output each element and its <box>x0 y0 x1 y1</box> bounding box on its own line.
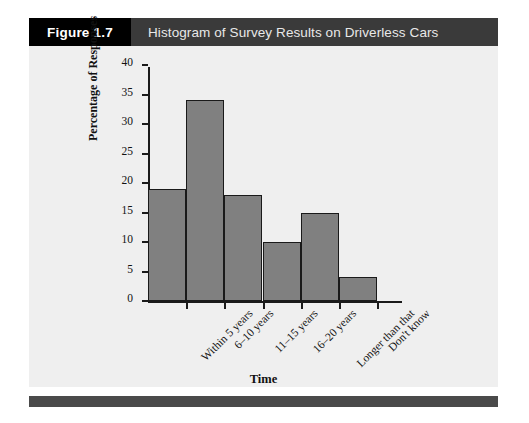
y-axis-tick: 30 <box>142 123 148 125</box>
bar <box>301 213 339 302</box>
bar <box>263 242 301 301</box>
y-axis-tick-label: 5 <box>127 263 133 275</box>
bar <box>148 189 186 301</box>
plot-area: 0510152025303540 <box>148 67 377 303</box>
figure-title: Histogram of Survey Results on Driverles… <box>131 18 498 46</box>
y-axis-tick-label: 20 <box>122 174 134 186</box>
figure-footer-bar <box>29 396 498 407</box>
bar <box>339 277 377 301</box>
y-axis-tick-label: 10 <box>122 233 134 245</box>
x-axis-title: Time <box>29 372 498 387</box>
figure-number-label: Figure 1.7 <box>29 18 131 46</box>
y-axis-tick: 25 <box>142 153 148 155</box>
y-axis-tick: 35 <box>142 94 148 96</box>
y-axis-title: Percentage of Responses <box>86 16 101 141</box>
y-axis-tick-label: 25 <box>122 145 134 157</box>
x-axis-tick-labels: Within 5 years6–10 years11–15 years16–20… <box>148 307 402 372</box>
bar <box>186 100 224 301</box>
bar <box>224 195 262 301</box>
figure-panel: Percentage of Responses 0510152025303540… <box>29 46 498 387</box>
y-axis-tick: 40 <box>142 64 148 66</box>
y-axis-tick-label: 40 <box>122 56 134 68</box>
y-axis-tick: 20 <box>142 182 148 184</box>
y-axis-tick-label: 0 <box>127 292 133 304</box>
figure-container: Figure 1.7 Histogram of Survey Results o… <box>0 0 529 423</box>
y-axis-tick-label: 35 <box>122 86 134 98</box>
y-axis-tick-label: 30 <box>122 115 134 127</box>
y-axis-tick-label: 15 <box>122 204 134 216</box>
